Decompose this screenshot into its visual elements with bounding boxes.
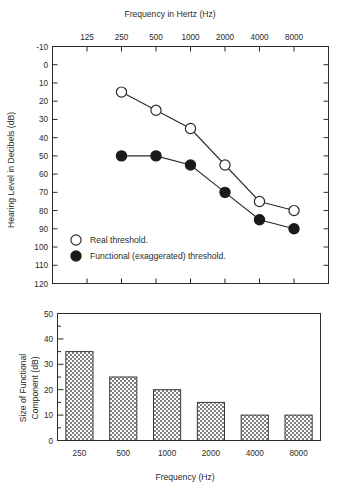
top-chart-x-tick-label: 4000	[250, 33, 269, 42]
bottom-chart-y-tick-label: 10	[44, 411, 54, 420]
top-chart-y-tick-label: 120	[34, 280, 48, 289]
functional-component-chart: Size of Functional Component (dB) Freque…	[0, 300, 341, 492]
bottom-chart-y-tick-label: 30	[44, 360, 54, 369]
bottom-chart-y-tick-label: 0	[48, 437, 53, 446]
audiogram-figure: Frequency in Hertz (Hz) Hearing Level in…	[0, 0, 341, 492]
top-chart-series-line	[122, 92, 295, 211]
top-chart-y-tick-label: 80	[39, 207, 49, 216]
top-chart-y-tick-label: 90	[39, 225, 49, 234]
data-point-real-threshold	[289, 205, 299, 215]
top-chart-y-tick-label: -10	[36, 43, 48, 52]
bottom-chart-x-tick-label: 8000	[289, 449, 308, 458]
legend-marker	[71, 235, 81, 245]
top-chart-y-tick-label: 40	[39, 134, 49, 143]
top-chart-x-tick-label: 125	[80, 33, 94, 42]
data-point-functional-threshold	[151, 151, 161, 161]
bar	[197, 402, 224, 440]
top-chart-x-tick-labels: 1252505001000200040008000	[80, 33, 303, 42]
top-chart-y-tick-label: 100	[34, 243, 48, 252]
bottom-chart-y-tick-labels: 01020304050	[44, 310, 54, 446]
data-point-functional-threshold	[220, 187, 230, 197]
top-chart-y-tick-label: 110	[35, 261, 48, 270]
data-point-functional-threshold	[185, 160, 195, 170]
bottom-chart-x-axis-label: Frequency (Hz)	[155, 472, 214, 482]
data-point-real-threshold	[116, 87, 126, 97]
top-chart-y-tick-label: 60	[39, 170, 49, 179]
bottom-chart-tick-marks	[58, 314, 64, 441]
bottom-chart-x-tick-labels: 2505001000200040008000	[73, 449, 309, 458]
top-chart-y-axis-label: Hearing Level in Decibels (dB)	[6, 112, 16, 228]
bottom-chart-plot-frame	[58, 314, 321, 441]
bottom-chart-x-tick-label: 1000	[158, 449, 177, 458]
top-chart-legend: Real threshold.Functional (exaggerated) …	[71, 235, 226, 261]
top-chart-x-tick-label: 1000	[181, 33, 200, 42]
top-chart-y-tick-label: 20	[39, 97, 49, 106]
top-chart-x-tick-label: 250	[115, 33, 129, 42]
bottom-chart-y-axis-label-line2: Component (dB)	[30, 356, 40, 419]
bar	[285, 415, 312, 440]
data-point-functional-threshold	[254, 215, 264, 225]
top-chart-x-tick-label: 500	[149, 33, 163, 42]
top-chart-y-tick-label: 0	[43, 61, 48, 70]
top-chart-series-group	[116, 87, 299, 234]
bottom-chart-x-tick-label: 500	[116, 449, 130, 458]
top-chart-series-line	[122, 156, 295, 229]
top-chart-y-tick-label: 50	[39, 152, 49, 161]
bar	[153, 390, 180, 441]
bottom-chart-y-tick-label: 20	[44, 386, 54, 395]
bottom-chart-y-tick-label: 50	[44, 310, 54, 319]
data-point-real-threshold	[254, 196, 264, 206]
legend-marker	[71, 251, 81, 261]
top-chart-y-tick-label: 70	[39, 188, 49, 197]
top-chart-y-tick-label: 10	[39, 79, 49, 88]
bottom-chart-bars	[66, 352, 312, 441]
top-chart-y-tick-labels: -100102030405060708090100110120	[34, 43, 48, 289]
bar	[110, 377, 137, 441]
bar	[66, 352, 93, 441]
bottom-chart-x-tick-label: 250	[73, 449, 87, 458]
data-point-real-threshold	[220, 160, 230, 170]
bar	[241, 415, 268, 440]
data-point-real-threshold	[151, 105, 161, 115]
bottom-chart-x-tick-label: 4000	[246, 449, 265, 458]
data-point-real-threshold	[185, 123, 195, 133]
hearing-threshold-chart: Frequency in Hertz (Hz) Hearing Level in…	[0, 0, 341, 300]
bottom-chart-y-tick-label: 40	[44, 335, 54, 344]
data-point-functional-threshold	[289, 224, 299, 234]
data-point-functional-threshold	[116, 151, 126, 161]
top-chart-x-tick-label: 2000	[216, 33, 235, 42]
top-chart-title: Frequency in Hertz (Hz)	[124, 9, 215, 19]
top-chart-x-tick-label: 8000	[285, 33, 304, 42]
bottom-chart-x-tick-label: 2000	[202, 449, 221, 458]
legend-label: Real threshold.	[90, 235, 148, 245]
bottom-chart-y-axis-label-line1: Size of Functional	[18, 354, 28, 422]
top-chart-y-tick-label: 30	[39, 115, 49, 124]
legend-label: Functional (exaggerated) threshold.	[90, 251, 226, 261]
